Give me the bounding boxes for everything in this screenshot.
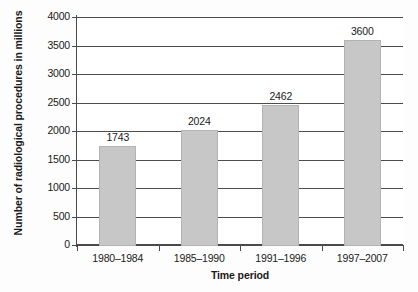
y-axis-title: Number of radiological procedures in mil…	[10, 0, 26, 248]
y-axis-tick-mark	[72, 131, 77, 132]
y-axis-tick-labels: 40003500300025002000150010005000	[26, 0, 70, 292]
bar-value-label: 2462	[241, 90, 321, 102]
x-axis-tick-mark	[77, 246, 78, 251]
x-axis-tick-mark	[240, 246, 241, 251]
x-axis-title: Time period	[77, 269, 403, 281]
y-axis-tick-mark	[72, 160, 77, 161]
bar	[262, 105, 299, 246]
x-axis-tick-label: 1997–2007	[317, 252, 407, 264]
y-axis-tick-mark	[72, 188, 77, 189]
bar-value-label: 1743	[78, 131, 158, 143]
y-axis-tick-label: 3500	[30, 39, 70, 51]
y-axis-tick-label: 4000	[30, 10, 70, 22]
bar-value-label: 2024	[159, 115, 239, 127]
y-axis-tick-mark	[72, 103, 77, 104]
x-axis-tick-label: 1991–1996	[236, 252, 326, 264]
bar	[99, 146, 136, 246]
x-axis-tick-mark	[159, 246, 160, 251]
bar	[344, 40, 381, 246]
gridline	[77, 17, 403, 18]
y-axis-tick-label: 3000	[30, 67, 70, 79]
y-axis-tick-mark	[72, 74, 77, 75]
y-axis-tick-label: 2000	[30, 124, 70, 136]
y-axis-tick-label: 0	[30, 238, 70, 250]
x-axis-tick-mark	[403, 246, 404, 251]
y-axis-tick-mark	[72, 17, 77, 18]
y-axis-tick-mark	[72, 245, 77, 246]
y-axis-tick-label: 1500	[30, 153, 70, 165]
x-axis-tick-mark	[322, 246, 323, 251]
x-axis-tick-label: 1980–1984	[73, 252, 163, 264]
y-axis-tick-label: 1000	[30, 181, 70, 193]
y-axis-tick-mark	[72, 217, 77, 218]
bar-chart-figure: Number of radiological procedures in mil…	[0, 0, 418, 292]
x-axis-tick-label: 1985–1990	[154, 252, 244, 264]
y-axis-tick-label: 2500	[30, 96, 70, 108]
y-axis-tick-mark	[72, 46, 77, 47]
bar	[181, 130, 218, 246]
y-axis-tick-label: 500	[30, 210, 70, 222]
bar-value-label: 3600	[322, 25, 402, 37]
